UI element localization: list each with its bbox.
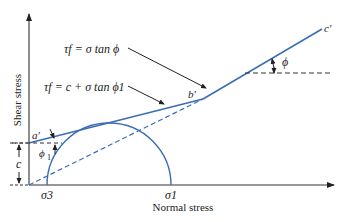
phi1-label: ϕ	[39, 147, 45, 159]
sigma3-label: σ3	[41, 188, 53, 202]
equation-overconsolidated-envelope: τf = c + σ tan ϕ1	[44, 80, 125, 94]
phi1-subscript: 1	[47, 153, 51, 162]
leader-arrow-normal	[128, 48, 206, 88]
point-b-label: b′	[188, 88, 197, 100]
point-a-label: a′	[32, 129, 41, 141]
cohesion-label: c	[16, 157, 22, 171]
mohr-coulomb-diagram: Shear stress Normal stress ϕ ϕ 1 c a′ b′…	[0, 0, 349, 222]
equation-normal-envelope: τf = σ tan ϕ	[64, 42, 119, 56]
mohr-circle	[47, 123, 171, 185]
phi-arrow-up	[272, 59, 274, 68]
sigma1-label: σ1	[165, 188, 177, 202]
dashed-origin-line	[29, 99, 203, 185]
x-axis-label: Normal stress	[153, 201, 214, 213]
point-c-label: c′	[324, 22, 332, 34]
envelope-a-b	[29, 99, 203, 143]
phi-label: ϕ	[282, 55, 288, 69]
y-axis-label: Shear stress	[11, 74, 23, 126]
leader-arrow-overconsolidated	[128, 86, 164, 104]
envelope-b-c	[203, 29, 322, 99]
